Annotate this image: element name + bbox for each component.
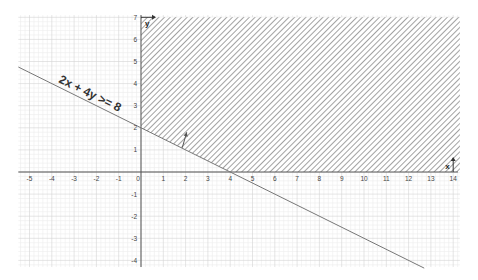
x-tick-label: 7: [295, 175, 299, 182]
y-tick-label: 3: [133, 102, 137, 109]
y-tick-label: -3: [131, 235, 137, 242]
y-axis-label: y: [145, 19, 150, 28]
y-tick-label: 7: [133, 14, 137, 21]
y-tick-label: -4: [131, 257, 137, 264]
y-tick-label: 1: [133, 146, 137, 153]
x-tick-label: 2: [184, 175, 188, 182]
x-tick-label: -5: [27, 175, 33, 182]
x-tick-label: 10: [360, 175, 368, 182]
x-tick-label: 6: [273, 175, 277, 182]
x-axis-label: x: [445, 162, 450, 171]
y-tick-label: -2: [131, 213, 137, 220]
x-tick-label: -4: [49, 175, 55, 182]
x-tick-label: 9: [340, 175, 344, 182]
x-tick-label: 12: [405, 175, 413, 182]
y-tick-label: 6: [133, 36, 137, 43]
x-tick-label: 3: [206, 175, 210, 182]
x-tick-label: -3: [71, 175, 77, 182]
y-tick-label: 4: [133, 80, 137, 87]
y-tick-label: 2: [133, 124, 137, 131]
x-tick-label: 14: [450, 175, 458, 182]
x-tick-label: 8: [318, 175, 322, 182]
x-tick-label: 1: [161, 175, 165, 182]
shaded-solution-region: [141, 17, 460, 172]
x-tick-label: -2: [94, 175, 100, 182]
y-tick-label: 5: [133, 58, 137, 65]
x-tick-label: 13: [427, 175, 435, 182]
x-tick-label: 5: [251, 175, 255, 182]
x-tick-label: 4: [228, 175, 232, 182]
equation-label: 2x + 4y >= 8: [57, 72, 124, 115]
x-tick-label: 0: [136, 175, 140, 182]
y-tick-label: -1: [131, 191, 137, 198]
inequality-plot: -5-4-3-2-101234567891011121314-4-3-2-112…: [0, 0, 478, 280]
x-tick-label: -1: [116, 175, 122, 182]
x-tick-label: 11: [383, 175, 390, 182]
